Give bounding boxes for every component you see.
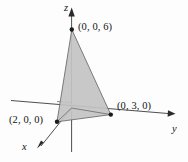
point-label-z-intercept: (0, 0, 6) xyxy=(78,22,112,33)
point-label-x-intercept: (2, 0, 0) xyxy=(9,115,43,126)
point-label-y-intercept: (0, 3, 0) xyxy=(117,101,151,112)
vertex-dot-y-intercept xyxy=(109,112,113,116)
z-axis-arrowhead xyxy=(68,8,74,17)
vertex-dot-z-intercept xyxy=(70,27,74,31)
x-axis-label: x xyxy=(22,142,27,153)
coordinate-figure: z y x (0, 0, 6) (0, 3, 0) (2, 0, 0) xyxy=(0,0,188,162)
vertex-dot-x-intercept xyxy=(55,120,59,124)
plane-triangle-face xyxy=(57,30,111,122)
z-axis-label: z xyxy=(64,3,68,14)
x-axis-arrowhead xyxy=(37,141,44,149)
y-axis-arrowhead xyxy=(168,110,176,117)
y-axis-label: y xyxy=(172,124,177,135)
